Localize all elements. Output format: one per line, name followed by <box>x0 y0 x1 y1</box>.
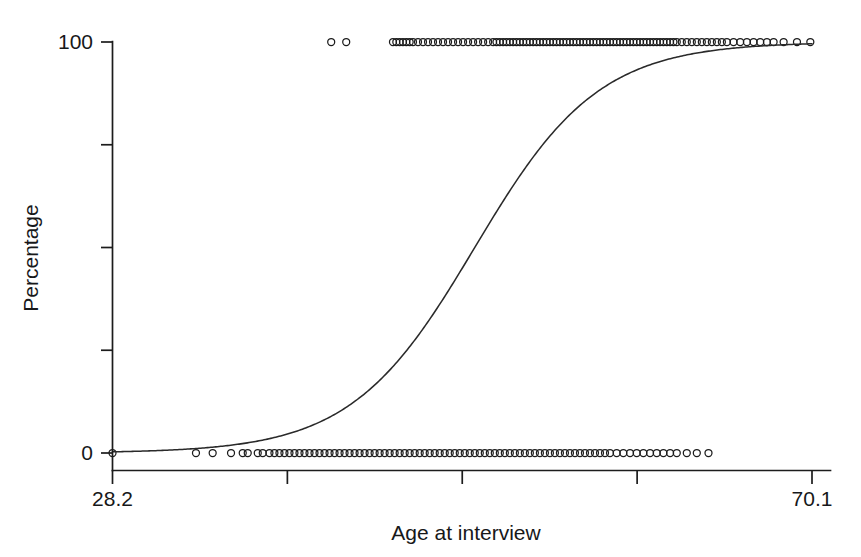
x-tick-label: 28.2 <box>92 487 133 510</box>
chart-figure: 0100 28.270.1 Age at interview Percentag… <box>0 0 861 557</box>
x-axis-title: Age at interview <box>391 521 541 544</box>
logistic-scatter-plot: 0100 28.270.1 Age at interview Percentag… <box>0 0 861 557</box>
y-tick-label: 100 <box>58 30 93 53</box>
y-axis-title: Percentage <box>19 204 42 311</box>
x-tick-label: 70.1 <box>792 487 833 510</box>
y-tick-label: 0 <box>81 441 93 464</box>
plot-background <box>0 0 861 557</box>
